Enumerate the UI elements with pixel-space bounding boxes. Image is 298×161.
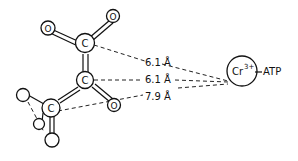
atom-O1: O (41, 21, 55, 35)
bond-c3-x1 (28, 95, 44, 104)
distance-label-1: 6.1 Å (145, 56, 171, 68)
metal-symbol: Cr (232, 66, 244, 77)
atom-C2: C (77, 72, 94, 89)
metal-charge: 3+ (244, 63, 254, 71)
atom-O3: O (108, 99, 121, 112)
atom-C1: C (76, 34, 95, 53)
atom-label: C (82, 38, 89, 49)
distance-label-3: 7.9 Å (145, 90, 171, 102)
atom-O2: O (107, 10, 120, 23)
atom-X3 (45, 133, 59, 147)
atom-label: C (82, 75, 89, 86)
atom-label: O (109, 12, 116, 22)
atom-label: O (110, 101, 117, 111)
atom-label: O (44, 24, 51, 34)
atom-label: C (48, 103, 55, 114)
metal-center: Cr 3+ ATP (227, 56, 281, 86)
atom-C3: C (42, 99, 60, 117)
atom-X2 (34, 119, 45, 130)
distance-label-2: 6.1 Å (145, 73, 171, 85)
distance-diagram: O O C C O C 6.1 Å 6.1 Å 7.9 Å Cr 3+ ATP (0, 0, 298, 161)
bonds (28, 20, 113, 135)
ligand-label: ATP (263, 66, 281, 77)
atom-X1 (17, 89, 30, 102)
